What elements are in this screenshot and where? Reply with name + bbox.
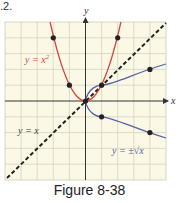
figure-caption: Figure 8-38 (0, 182, 179, 198)
identity-label: y = x (17, 125, 39, 136)
graph: y x y = x2 y = x y = ±√x (0, 0, 179, 203)
x-axis-label: x (170, 95, 176, 106)
y-axis-label: y (83, 5, 89, 16)
sqrt-label: y = ±√x (111, 145, 144, 156)
